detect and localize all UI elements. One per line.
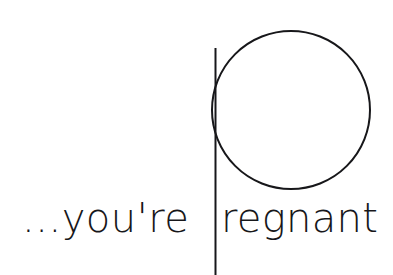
phrase-lead-segment: ...you're xyxy=(22,198,189,238)
phrase-tail-segment: regnant xyxy=(221,198,378,238)
phrase: ...you're regnant xyxy=(0,0,393,275)
artwork-canvas: ...you're regnant xyxy=(0,0,393,275)
